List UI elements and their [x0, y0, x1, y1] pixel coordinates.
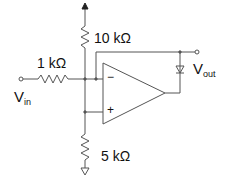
vout-terminal [195, 50, 199, 54]
resistor-1k [38, 75, 68, 83]
plus-sign: + [107, 103, 114, 117]
r-feedback-label: 10 kΩ [94, 30, 131, 46]
vout-label: Vout [193, 60, 216, 77]
ground-icon [81, 168, 89, 175]
arrow-up-icon [82, 3, 88, 9]
r-input-label: 1 kΩ [37, 55, 66, 71]
vin-terminal [19, 77, 23, 81]
resistor-10k [81, 22, 89, 52]
minus-sign: − [107, 70, 114, 84]
vin-label: Vin [14, 88, 31, 105]
resistor-5k [81, 130, 89, 168]
r-ground-label: 5 kΩ [101, 148, 130, 164]
